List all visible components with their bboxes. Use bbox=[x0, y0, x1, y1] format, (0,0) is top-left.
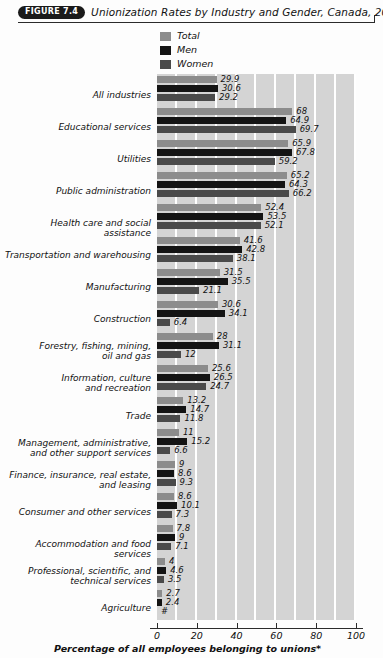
bar-total bbox=[157, 76, 217, 83]
category-label-line: Agriculture bbox=[1, 603, 151, 613]
bar-men bbox=[157, 534, 175, 541]
category-label-line: Health care and social assistance bbox=[1, 218, 151, 238]
category-label: Educational services bbox=[1, 122, 151, 132]
bar-total bbox=[157, 108, 292, 115]
category-label-line: Information, culture bbox=[1, 373, 151, 383]
x-axis-title: Percentage of all employees belonging to… bbox=[0, 643, 375, 654]
category-label: Accommodation and food services bbox=[1, 539, 151, 559]
category-label: Manufacturing bbox=[1, 282, 151, 292]
bar-group: Accommodation and food services7.897.1 bbox=[0, 525, 383, 557]
category-label-line: and leasing bbox=[1, 480, 151, 490]
bar-value-label: 12 bbox=[185, 349, 196, 359]
category-label-line: Finance, insurance, real estate, bbox=[1, 470, 151, 480]
bar-total bbox=[157, 140, 288, 147]
bar-women bbox=[157, 222, 261, 229]
category-label-line: Utilities bbox=[1, 154, 151, 164]
category-label: Construction bbox=[1, 314, 151, 324]
bar-men bbox=[157, 567, 166, 574]
bar-women bbox=[157, 351, 181, 358]
bar-men bbox=[157, 342, 219, 349]
bar-men bbox=[157, 406, 186, 413]
legend-swatch-men bbox=[160, 46, 171, 55]
x-axis-line bbox=[150, 628, 363, 629]
legend-swatch-women bbox=[160, 60, 171, 69]
bar-group: Forestry, fishing, mining,oil and gas283… bbox=[0, 333, 383, 365]
bar-value-label: 6.6 bbox=[174, 445, 188, 455]
bar-total bbox=[157, 301, 218, 308]
x-axis-tick-label: 40 bbox=[231, 630, 243, 641]
figure-title: Unionization Rates by Industry and Gende… bbox=[91, 6, 383, 18]
bar-total bbox=[157, 397, 183, 404]
bar-women bbox=[157, 287, 199, 294]
category-label-line: Accommodation and food services bbox=[1, 539, 151, 559]
bar-group: Consumer and other services8.610.17.3 bbox=[0, 493, 383, 525]
bar-men bbox=[157, 149, 292, 156]
category-label-line: Manufacturing bbox=[1, 282, 151, 292]
chart-legend: Total Men Women bbox=[160, 30, 213, 70]
bar-men bbox=[157, 374, 210, 381]
category-label-line: Forestry, fishing, mining, bbox=[1, 341, 151, 351]
bar-total bbox=[157, 493, 174, 500]
plot-area: All industries29.930.629.2Educational se… bbox=[0, 74, 383, 622]
figure-header: FIGURE 7.4 Unionization Rates by Industr… bbox=[0, 0, 383, 24]
bar-value-label: 24.7 bbox=[210, 381, 229, 391]
x-axis-tick-label: 0 bbox=[154, 630, 160, 641]
category-label-line: Educational services bbox=[1, 122, 151, 132]
bar-total bbox=[157, 204, 261, 211]
bar-value-label: 52.1 bbox=[265, 220, 284, 230]
bar-group: Manufacturing31.535.521.1 bbox=[0, 269, 383, 301]
bar-group: Transportation and warehousing41.642.838… bbox=[0, 237, 383, 269]
bar-value-label: 69.7 bbox=[300, 124, 319, 134]
bar-men bbox=[157, 502, 177, 509]
x-axis-tick bbox=[157, 623, 158, 628]
x-axis-tick bbox=[276, 623, 277, 628]
x-axis-tick bbox=[237, 623, 238, 628]
bar-men bbox=[157, 213, 263, 220]
bar-value-label: 67.8 bbox=[296, 147, 315, 157]
legend-label-women: Women bbox=[177, 59, 213, 69]
legend-item-total: Total bbox=[160, 30, 213, 42]
bar-group: Trade13.214.711.8 bbox=[0, 397, 383, 429]
bar-value-label: 7.1 bbox=[175, 541, 189, 551]
category-label-line: Construction bbox=[1, 314, 151, 324]
figure-number-badge: FIGURE 7.4 bbox=[18, 6, 85, 19]
bar-women bbox=[157, 383, 206, 390]
bar-group: Construction30.634.16.4 bbox=[0, 301, 383, 333]
category-label-line: Management, administrative, bbox=[1, 438, 151, 448]
legend-label-total: Total bbox=[177, 31, 200, 41]
bar-value-label: 38.1 bbox=[237, 253, 256, 263]
bar-group: Agriculture2.72.4# bbox=[0, 590, 383, 622]
bar-value-label: 3.5 bbox=[168, 574, 182, 584]
x-axis-tick-label: 100 bbox=[347, 630, 365, 641]
bar-women bbox=[157, 190, 289, 197]
bar-total bbox=[157, 172, 287, 179]
bar-women bbox=[157, 158, 275, 165]
bar-group: Utilities65.967.859.2 bbox=[0, 140, 383, 172]
bar-women bbox=[157, 126, 296, 133]
x-axis-tick-label: 20 bbox=[191, 630, 203, 641]
bar-value-label: 34.1 bbox=[229, 308, 248, 318]
bar-total bbox=[157, 333, 213, 340]
bar-women bbox=[157, 576, 164, 583]
category-label: Utilities bbox=[1, 154, 151, 164]
category-label: Public administration bbox=[1, 186, 151, 196]
category-label: Agriculture bbox=[1, 603, 151, 613]
category-label-line: Trade bbox=[1, 411, 151, 421]
x-axis-tick bbox=[197, 623, 198, 628]
bar-women bbox=[157, 255, 233, 262]
bar-value-label: 59.2 bbox=[279, 156, 298, 166]
bar-value-label: 31.1 bbox=[223, 340, 242, 350]
bar-men bbox=[157, 85, 218, 92]
category-label: Forestry, fishing, mining,oil and gas bbox=[1, 341, 151, 361]
bar-women bbox=[157, 94, 215, 101]
bar-value-label: 11.8 bbox=[184, 413, 203, 423]
category-label: Finance, insurance, real estate,and leas… bbox=[1, 470, 151, 490]
bar-group: Management, administrative,and other sup… bbox=[0, 429, 383, 461]
bar-group: Professional, scientific, andtechnical s… bbox=[0, 558, 383, 590]
bar-total bbox=[157, 237, 240, 244]
bar-men bbox=[157, 246, 242, 253]
bar-group: Educational services6864.969.7 bbox=[0, 108, 383, 140]
title-divider bbox=[18, 22, 375, 23]
bar-men bbox=[157, 599, 162, 606]
bar-value-label: 15.2 bbox=[191, 436, 210, 446]
